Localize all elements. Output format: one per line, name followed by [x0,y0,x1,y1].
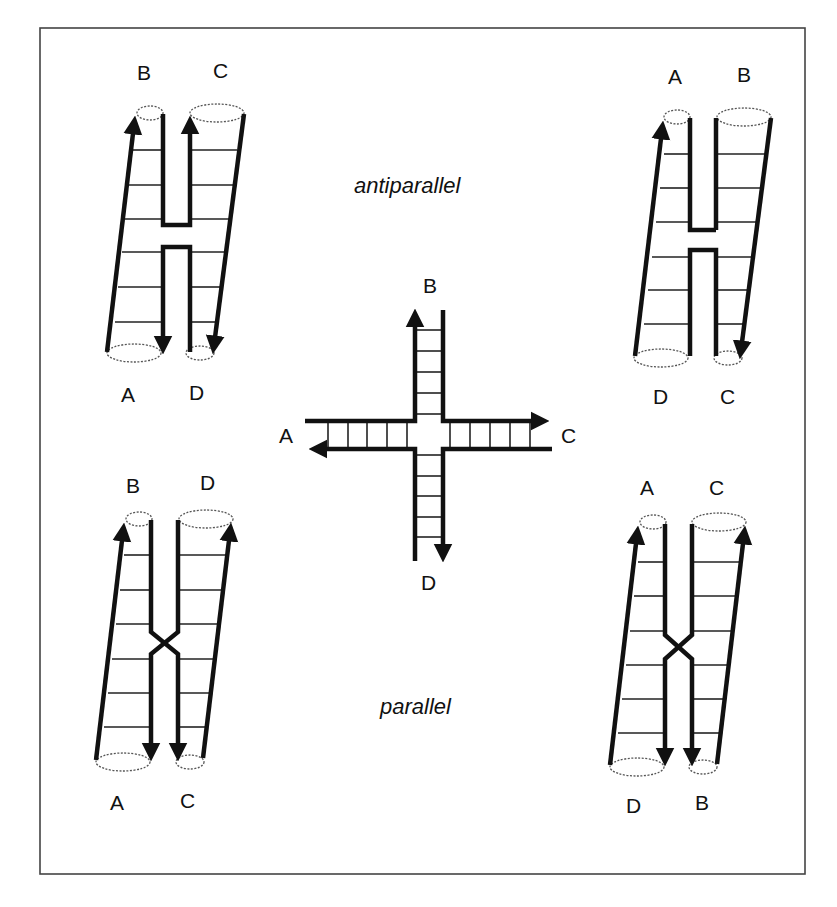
strand-label: B [737,63,751,86]
strand-label: D [421,571,436,594]
dna-strand-arrow [305,318,415,421]
strand-label: A [121,383,135,406]
strand-label: B [126,474,140,497]
helix-end-ellipse [179,510,233,528]
dna-strand-arrow [203,532,230,758]
helix-end-ellipse [717,108,771,126]
strand-label: B [137,61,151,84]
holliday-junction-diagram: antiparallel parallel B C [0,0,837,907]
helix-end-ellipse [692,513,746,531]
strand-label: D [189,381,204,404]
caption-parallel: parallel [379,694,452,719]
dna-strand-arrow [635,130,662,356]
strand-label: A [110,791,124,814]
dna-strand-arrow [163,114,190,225]
helix-end-ellipse [190,104,244,122]
strand-label: A [668,65,682,88]
dna-strand-arrow [96,532,123,760]
strand-label: A [640,476,654,499]
caption-antiparallel: antiparallel [354,173,462,198]
dna-strand-arrow [214,114,244,345]
dna-strand-arrow [690,118,716,230]
strand-label: C [720,385,735,408]
strand-label: C [561,424,576,447]
strand-label: B [423,274,437,297]
helix-end-ellipse [640,515,666,529]
dna-strand-arrow [443,449,552,553]
helix-end-ellipse [176,755,204,769]
helix-end-ellipse [96,753,150,771]
stacked-x-top-right: A B D C [634,63,771,408]
strand-label: C [213,59,228,82]
dna-strand-arrow [717,535,744,764]
dna-strand-arrow [107,125,134,352]
dna-strand-arrow [318,449,415,561]
helix-end-ellipse [126,512,152,526]
dna-strand-arrow [610,535,637,765]
open-four-way-junction: B A C D [279,274,576,594]
strand-label: D [626,794,641,817]
strand-label: C [709,476,724,499]
dna-strand-arrow [163,247,190,352]
strand-label: A [279,424,293,447]
strand-label: D [200,471,215,494]
helix-end-ellipse [137,106,163,120]
helix-end-ellipse [610,758,664,776]
stacked-x-bottom-right: A C D B [610,476,746,817]
strand-label: D [653,385,668,408]
dna-strand-arrow [741,118,771,350]
helix-end-ellipse [689,760,717,774]
dna-strand-arrow [443,310,540,421]
stacked-x-top-left: B C A D [107,59,244,406]
stacked-x-bottom-left: B D A C [96,471,233,814]
strand-label: B [695,791,709,814]
helix-end-ellipse [664,110,690,124]
strand-label: C [180,789,195,812]
helix-end-ellipse [107,344,161,362]
helix-end-ellipse [634,349,688,367]
base-pair-rungs [328,330,530,537]
dna-strand-arrow [690,250,716,356]
